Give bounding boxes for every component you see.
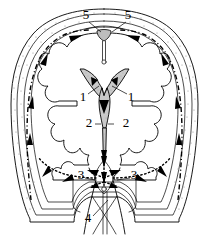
flow-arrowhead-right-4 <box>126 35 140 42</box>
label-1-right: 1 <box>128 89 135 104</box>
flow-arrowhead-fourth-left-down <box>90 182 99 188</box>
brainstem-cross-left <box>92 196 116 234</box>
flow-arrowhead-basal-left-2 <box>42 166 52 177</box>
flow-arrowhead-basal-right-2 <box>157 166 167 177</box>
label-4: 4 <box>85 210 92 225</box>
label-2-right: 2 <box>123 115 130 130</box>
granulation-stalk-foramen <box>102 60 106 64</box>
label-5-right: 5 <box>125 7 132 22</box>
arachnoid-granulation <box>97 30 111 42</box>
lateral-ventricle-right <box>107 69 129 99</box>
superior-sagittal-sinus-roof <box>86 26 123 29</box>
flow-arrowhead-left-4 <box>69 35 83 42</box>
label-2-left: 2 <box>86 115 93 130</box>
brainstem-right-border <box>113 180 125 234</box>
brain-coronal-section-diagram: 5 5 1 1 2 2 3 3 4 <box>0 0 209 235</box>
brainstem-cross-right <box>93 196 117 234</box>
label-3-left: 3 <box>78 167 85 182</box>
label-1-left: 1 <box>80 89 87 104</box>
arachnoid-granulation-group <box>86 26 123 64</box>
brainstem-left-border <box>84 180 96 234</box>
label-5-left: 5 <box>83 7 90 22</box>
label-3-right: 3 <box>131 167 138 182</box>
csf-circulation-figure: 5 5 1 1 2 2 3 3 4 <box>0 0 209 235</box>
brainstem-spinal-cord-group <box>73 180 136 234</box>
fourth-ventricle-aperture <box>102 187 107 192</box>
